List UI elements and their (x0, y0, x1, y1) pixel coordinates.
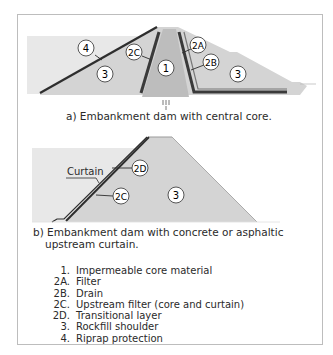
label-3-left: 3 (97, 66, 113, 82)
label-3-b: 3 (168, 187, 184, 203)
label-1: 1 (158, 60, 174, 76)
svg-text:3: 3 (102, 69, 108, 80)
svg-text:3: 3 (173, 190, 179, 201)
legend-item: 3.Rockfill shoulder (40, 321, 244, 332)
svg-text:2A: 2A (192, 41, 205, 51)
label-3-right: 3 (230, 66, 246, 82)
caption-b-line2: upstream curtain. (45, 238, 139, 250)
svg-text:2B: 2B (205, 58, 217, 68)
legend-item: 1.Impermeable core material (40, 265, 244, 276)
svg-text:2C: 2C (115, 192, 127, 202)
svg-text:2C: 2C (128, 48, 140, 58)
svg-text:2D: 2D (134, 164, 147, 174)
diagram-a: 4 3 2C 1 2A 2B 3 (27, 27, 316, 110)
svg-text:3: 3 (235, 69, 241, 80)
legend-item: 2A.Filter (40, 276, 244, 287)
svg-text:Curtain: Curtain (67, 166, 104, 177)
diagram-b: Curtain 2D 2C 3 (32, 137, 280, 222)
legend-item: 2B.Drain (40, 288, 244, 299)
caption-a: a) Embankment dam with central core. (66, 110, 272, 122)
svg-text:4: 4 (83, 43, 89, 54)
legend-item: 2D.Transitional layer (40, 310, 244, 321)
legend: 1.Impermeable core material 2A.Filter 2B… (40, 265, 244, 344)
legend-item: 4.Riprap protection (40, 333, 244, 344)
svg-text:1: 1 (163, 63, 169, 74)
caption-b-line1: b) Embankment dam with concrete or aspha… (33, 226, 283, 238)
legend-item: 2C.Upstream filter (core and curtain) (40, 299, 244, 310)
